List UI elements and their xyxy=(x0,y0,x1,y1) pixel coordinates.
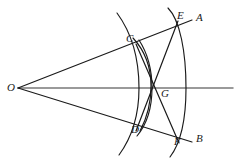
diagram-canvas: O A B C D E F G xyxy=(0,0,239,163)
chord-DE xyxy=(136,21,178,131)
point-label-A: A xyxy=(196,12,203,23)
point-label-C: C xyxy=(126,33,133,44)
point-label-B: B xyxy=(196,133,203,144)
point-label-G: G xyxy=(161,88,169,99)
point-label-O: O xyxy=(7,82,15,93)
point-label-D: D xyxy=(131,124,139,135)
point-label-F: F xyxy=(174,136,181,147)
geometry-figure xyxy=(0,0,239,163)
point-label-E: E xyxy=(177,10,184,21)
